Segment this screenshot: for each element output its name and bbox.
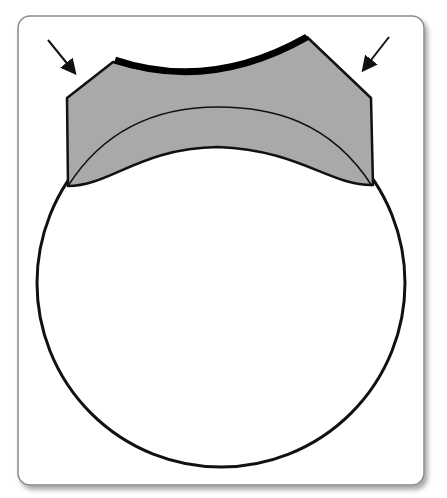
diagram-svg xyxy=(0,0,447,498)
diagram-canvas xyxy=(0,0,447,498)
